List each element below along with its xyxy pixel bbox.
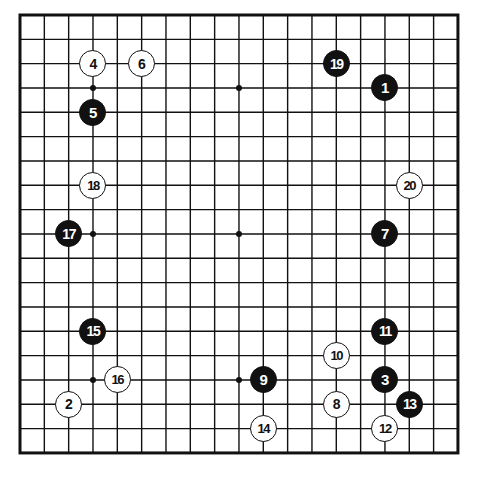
stone-move-number: 10	[330, 349, 342, 362]
go-board-diagram: 1234567891011121314151617181920	[0, 0, 479, 496]
stone-move-number: 7	[381, 226, 389, 241]
stone-move-number: 18	[87, 178, 99, 191]
stone-move-number: 12	[379, 422, 391, 435]
stone-move-number: 2	[65, 397, 72, 411]
star-point	[236, 231, 242, 237]
stone-move-number: 14	[257, 422, 269, 435]
stone-move-number: 17	[62, 226, 75, 240]
stone-move-number: 16	[111, 373, 123, 386]
stone-move-number: 4	[89, 56, 96, 70]
star-point	[236, 377, 242, 383]
stone-black-19[interactable]: 19	[323, 50, 350, 77]
star-point	[90, 85, 96, 91]
stone-move-number: 20	[403, 178, 415, 191]
stone-move-number: 1	[381, 80, 389, 95]
stone-black-13[interactable]: 13	[396, 391, 423, 418]
stone-move-number: 8	[333, 397, 340, 411]
stone-white-20[interactable]: 20	[396, 172, 423, 199]
stone-white-8[interactable]: 8	[323, 391, 350, 418]
goban-grid[interactable]	[0, 0, 479, 496]
stone-white-14[interactable]: 14	[250, 415, 277, 442]
stone-move-number: 11	[379, 324, 391, 338]
stone-move-number: 6	[138, 56, 145, 70]
stone-move-number: 13	[403, 397, 416, 411]
stone-move-number: 9	[259, 372, 267, 387]
star-point	[90, 231, 96, 237]
stone-move-number: 19	[330, 56, 343, 70]
stone-white-10[interactable]: 10	[323, 342, 350, 369]
stone-move-number: 3	[381, 372, 389, 387]
star-point	[236, 85, 242, 91]
star-point	[90, 377, 96, 383]
stone-move-number: 5	[89, 104, 97, 119]
stone-white-2[interactable]: 2	[55, 391, 82, 418]
stone-move-number: 15	[87, 324, 100, 338]
